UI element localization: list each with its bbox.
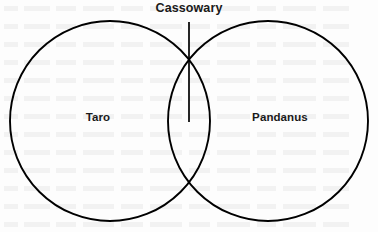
venn-diagram-figure: Cassowary Taro Pandanus bbox=[0, 0, 378, 232]
set-label-taro: Taro bbox=[0, 112, 196, 124]
set-label-pandanus: Pandanus bbox=[182, 112, 378, 124]
intersection-label-cassowary: Cassowary bbox=[0, 2, 378, 15]
